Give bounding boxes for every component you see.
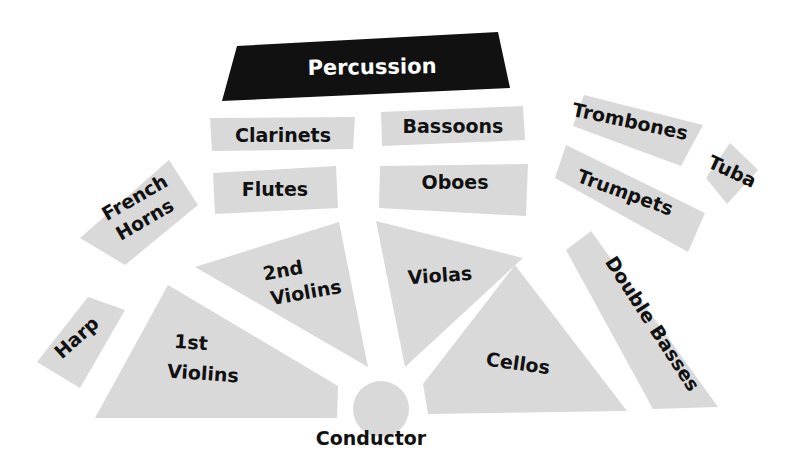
section-flutes: Flutes [213, 166, 338, 214]
label-clarinets: Clarinets [235, 124, 331, 146]
section-tuba: Tuba [705, 143, 760, 204]
section-clarinets: Clarinets [210, 117, 355, 151]
label-percussion: Percussion [307, 54, 436, 80]
section-percussion: Percussion [222, 32, 510, 101]
label-first-violins-line1: 1st [174, 330, 209, 354]
section-oboes: Oboes [379, 164, 528, 216]
section-french-horns: French Horns [80, 160, 198, 265]
label-oboes: Oboes [421, 171, 488, 193]
section-harp: Harp [37, 297, 125, 388]
label-bassoons: Bassoons [403, 115, 504, 137]
label-violas: Violas [407, 262, 473, 288]
label-conductor: Conductor [316, 427, 427, 449]
section-bassoons: Bassoons [381, 106, 525, 146]
orchestra-seating-diagram: Percussion Clarinets Bassoons Flutes Obo… [0, 0, 788, 463]
section-trombones: Trombones [570, 95, 703, 166]
label-flutes: Flutes [242, 178, 308, 200]
